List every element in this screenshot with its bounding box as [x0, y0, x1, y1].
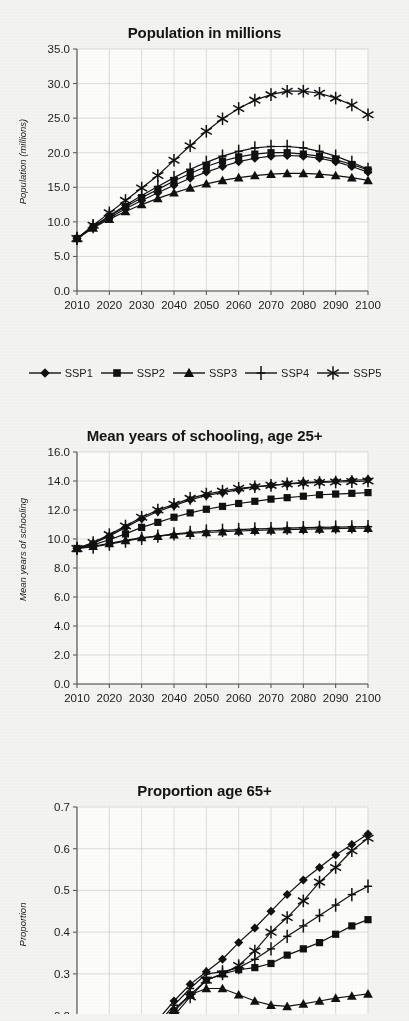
- y-axis-tick-label: 15.0: [48, 181, 70, 193]
- y-axis-tick-label: 0.0: [54, 285, 70, 297]
- legend-item-ssp5[interactable]: SSP5: [316, 366, 381, 380]
- legend-item-ssp2[interactable]: SSP2: [100, 366, 165, 380]
- x-axis-tick-label: 2070: [258, 692, 284, 704]
- data-point-square: [219, 503, 226, 510]
- y-axis-tick-label: 8.0: [54, 562, 70, 574]
- legend-label: SSP5: [353, 367, 381, 379]
- legend-label: SSP1: [65, 367, 93, 379]
- data-point-square: [300, 945, 307, 952]
- legend-marker-triangle-icon: [172, 366, 206, 380]
- legend-item-ssp1[interactable]: SSP1: [28, 366, 93, 380]
- x-axis-tick-label: 2030: [129, 692, 155, 704]
- data-point-square: [332, 490, 339, 497]
- y-axis-tick-label: 0.0: [54, 678, 70, 690]
- data-point-square: [267, 960, 274, 967]
- x-axis-tick-label: 2010: [64, 692, 90, 704]
- chart-svg-population: 0.05.010.015.020.025.030.035.02010202020…: [0, 41, 409, 331]
- plot-area-proportion: Proportion 0.20.30.40.50.60.7: [0, 799, 409, 1014]
- page-title-proportion: Proportion age 65+: [0, 770, 409, 799]
- y-axis-tick-label: 0.5: [54, 884, 70, 896]
- x-axis-tick-label: 2060: [226, 299, 252, 311]
- x-axis-tick-label: 2020: [97, 692, 123, 704]
- data-point-square: [364, 489, 371, 496]
- y-axis-tick-label: 5.0: [54, 250, 70, 262]
- x-axis-tick-label: 2100: [355, 692, 381, 704]
- x-axis-tick-label: 2090: [323, 692, 349, 704]
- chart-panel-proportion: Proportion age 65+ Proportion 0.20.30.40…: [0, 770, 409, 1021]
- data-point-square: [364, 916, 371, 923]
- y-axis-tick-label: 12.0: [48, 504, 70, 516]
- x-axis-tick-label: 2100: [355, 299, 381, 311]
- x-axis-tick-label: 2080: [291, 692, 317, 704]
- data-point-square: [348, 922, 355, 929]
- y-axis-tick-label: 30.0: [48, 78, 70, 90]
- legend-marker-asterisk-icon: [316, 366, 350, 380]
- y-axis-tick-label: 16.0: [48, 446, 70, 458]
- y-axis-tick-label: 0.3: [54, 968, 70, 980]
- x-axis-tick-label: 2020: [97, 299, 123, 311]
- data-point-square: [316, 491, 323, 498]
- data-point-diamond: [40, 368, 50, 378]
- data-point-square: [154, 519, 161, 526]
- y-axis-tick-label: 20.0: [48, 147, 70, 159]
- y-axis-tick-label: 0.6: [54, 843, 70, 855]
- y-axis-label-schooling: Mean years of schooling: [17, 490, 28, 610]
- y-axis-tick-label: 25.0: [48, 112, 70, 124]
- data-point-square: [170, 514, 177, 521]
- data-point-square: [267, 496, 274, 503]
- legend-marker-square-icon: [100, 366, 134, 380]
- chart-svg-schooling: 0.02.04.06.08.010.012.014.016.0201020202…: [0, 444, 409, 724]
- y-axis-tick-label: 0.4: [54, 926, 71, 938]
- legend-items: SSP1SSP2SSP3SSP4SSP5: [0, 356, 409, 390]
- x-axis-tick-label: 2050: [194, 692, 220, 704]
- plot-area-schooling: Mean years of schooling 0.02.04.06.08.01…: [0, 444, 409, 724]
- data-point-square: [332, 931, 339, 938]
- legend-item-ssp3[interactable]: SSP3: [172, 366, 237, 380]
- data-point-square: [316, 939, 323, 946]
- legend-label: SSP2: [137, 367, 165, 379]
- legend-label: SSP4: [281, 367, 309, 379]
- data-point-plus: [257, 366, 266, 380]
- x-axis-tick-label: 2040: [161, 692, 187, 704]
- data-point-square: [284, 494, 291, 501]
- y-axis-tick-label: 6.0: [54, 591, 70, 603]
- legend-marker-diamond-icon: [28, 366, 62, 380]
- page-title-population: Population in millions: [0, 0, 409, 41]
- y-axis-tick-label: 2.0: [54, 649, 70, 661]
- y-axis-tick-label: 0.7: [54, 801, 70, 813]
- data-point-square: [284, 952, 291, 959]
- x-axis-tick-label: 2010: [64, 299, 90, 311]
- y-axis-label-proportion: Proportion: [17, 865, 28, 985]
- legend-marker-plus-icon: [244, 366, 278, 380]
- data-point-square: [113, 369, 121, 377]
- data-point-square: [187, 509, 194, 516]
- x-axis-tick-label: 2070: [258, 299, 284, 311]
- data-point-square: [251, 498, 258, 505]
- legend-item-ssp4[interactable]: SSP4: [244, 366, 309, 380]
- data-point-square: [203, 506, 210, 513]
- data-point-square: [235, 500, 242, 507]
- page-title-schooling: Mean years of schooling, age 25+: [0, 413, 409, 444]
- y-axis-tick-label: 0.2: [54, 1010, 70, 1014]
- chart-panel-schooling: Mean years of schooling, age 25+ Mean ye…: [0, 413, 409, 723]
- data-point-square: [348, 490, 355, 497]
- x-axis-tick-label: 2040: [161, 299, 187, 311]
- y-axis-tick-label: 4.0: [54, 620, 70, 632]
- y-axis-tick-label: 14.0: [48, 475, 70, 487]
- x-axis-tick-label: 2060: [226, 692, 252, 704]
- x-axis-tick-label: 2030: [129, 299, 155, 311]
- chart-panel-population: Population in millions Population (milli…: [0, 0, 409, 355]
- legend-label: SSP3: [209, 367, 237, 379]
- chart-legend: SSP1SSP2SSP3SSP4SSP5: [0, 356, 409, 390]
- plot-area-population: Population (millions) 0.05.010.015.020.0…: [0, 41, 409, 331]
- x-axis-tick-label: 2080: [291, 299, 317, 311]
- y-axis-tick-label: 10.0: [48, 216, 70, 228]
- y-axis-tick-label: 10.0: [48, 533, 70, 545]
- y-axis-label-population: Population (millions): [17, 102, 28, 222]
- data-point-square: [138, 524, 145, 531]
- x-axis-tick-label: 2050: [194, 299, 220, 311]
- plot-background: [77, 807, 368, 1014]
- data-point-square: [300, 493, 307, 500]
- chart-svg-proportion: 0.20.30.40.50.60.7: [0, 799, 409, 1014]
- y-axis-tick-label: 35.0: [48, 43, 70, 55]
